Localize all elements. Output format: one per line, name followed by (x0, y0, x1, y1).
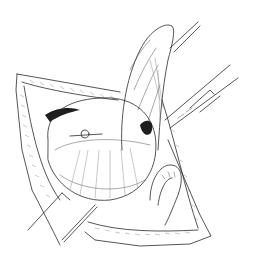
abdominal-wall-incision (16, 74, 211, 246)
line-drawing (0, 0, 253, 255)
surgical-illustration (0, 0, 253, 255)
forceps-top (170, 22, 200, 52)
clamp-right (165, 65, 238, 128)
retractor-lower-left (28, 193, 70, 230)
bowel-loop (150, 165, 181, 225)
